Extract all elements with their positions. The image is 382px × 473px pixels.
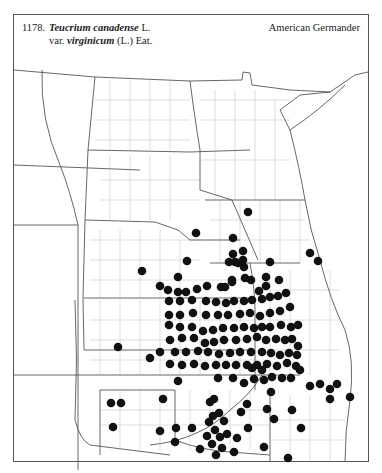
occurrence-dot bbox=[266, 293, 275, 302]
occurrence-dot bbox=[156, 427, 165, 436]
occurrence-dot bbox=[216, 433, 225, 442]
occurrence-dot bbox=[248, 364, 257, 373]
occurrence-dot bbox=[109, 423, 118, 432]
occurrence-dot bbox=[274, 292, 283, 301]
occurrence-dot bbox=[250, 324, 259, 333]
occurrence-dot bbox=[202, 297, 211, 306]
occurrence-dot bbox=[267, 349, 276, 358]
occurrence-dot bbox=[212, 298, 221, 307]
occurrence-dot bbox=[287, 374, 296, 383]
occurrence-dot bbox=[296, 366, 305, 375]
occurrence-dot bbox=[306, 382, 315, 391]
occurrence-dot bbox=[262, 336, 271, 345]
occurrence-dot bbox=[164, 286, 173, 295]
occurrence-dot bbox=[266, 323, 275, 332]
occurrence-dot bbox=[201, 339, 210, 348]
occurrence-dot bbox=[243, 400, 252, 409]
occurrence-dot bbox=[248, 296, 257, 305]
occurrence-dot bbox=[314, 257, 323, 266]
occurrence-dot bbox=[138, 267, 147, 276]
occurrence-dot bbox=[243, 335, 252, 344]
occurrence-dot bbox=[268, 373, 277, 382]
occurrence-dot bbox=[192, 229, 201, 238]
occurrence-dot bbox=[293, 351, 302, 360]
occurrence-dot bbox=[174, 288, 183, 297]
occurrence-dot bbox=[211, 426, 220, 435]
occurrence-dot bbox=[237, 408, 246, 417]
occurrence-dot bbox=[240, 323, 249, 332]
occurrence-dot bbox=[244, 208, 253, 217]
occurrence-dot bbox=[203, 282, 212, 291]
occurrence-dot bbox=[193, 285, 202, 294]
occurrence-dot bbox=[146, 354, 155, 363]
occurrence-dot bbox=[230, 448, 239, 457]
occurrence-dot bbox=[232, 361, 241, 370]
occurrence-dot bbox=[272, 335, 281, 344]
occurrence-dot bbox=[306, 249, 315, 258]
occurrence-dot bbox=[229, 374, 238, 383]
occurrence-dot bbox=[182, 288, 191, 297]
occurrence-dot bbox=[178, 334, 187, 343]
occurrence-dot bbox=[203, 432, 212, 441]
occurrence-dot bbox=[165, 311, 174, 320]
occurrence-dot bbox=[202, 311, 211, 320]
occurrence-dot bbox=[283, 359, 292, 368]
occurrence-dot bbox=[210, 338, 219, 347]
occurrence-dot bbox=[229, 250, 238, 259]
occurrence-dot bbox=[166, 336, 175, 345]
occurrence-dot bbox=[176, 311, 185, 320]
occurrence-dot bbox=[253, 333, 262, 342]
occurrence-dot bbox=[159, 395, 168, 404]
occurrence-dot bbox=[286, 303, 295, 312]
occurrence-dot bbox=[277, 321, 286, 330]
occurrence-dot bbox=[222, 299, 231, 308]
occurrence-dot bbox=[278, 374, 287, 383]
occurrence-dot bbox=[326, 395, 335, 404]
occurrence-dot bbox=[239, 256, 248, 265]
occurrence-dot bbox=[176, 323, 185, 332]
occurrence-dot bbox=[182, 348, 191, 357]
occurrence-dot bbox=[230, 324, 239, 333]
occurrence-dot bbox=[156, 348, 165, 357]
occurrence-dot bbox=[250, 375, 259, 384]
occurrence-dot bbox=[222, 361, 231, 370]
occurrence-dot bbox=[183, 257, 192, 266]
occurrence-dot bbox=[205, 418, 214, 427]
occurrence-dot bbox=[206, 398, 215, 407]
occurrence-dot bbox=[288, 406, 297, 415]
occurrence-dot bbox=[188, 323, 197, 332]
occurrence-dot bbox=[199, 327, 208, 336]
occurrence-dot bbox=[247, 348, 256, 357]
occurrence-dot bbox=[220, 336, 229, 345]
occurrence-dot bbox=[239, 247, 248, 256]
occurrence-dot bbox=[166, 360, 175, 369]
occurrence-dot bbox=[117, 399, 126, 408]
occurrence-dot bbox=[172, 424, 181, 433]
occurrence-dot bbox=[208, 440, 217, 449]
occurrence-dot bbox=[174, 377, 183, 386]
occurrence-dot bbox=[209, 326, 218, 335]
occurrence-dot bbox=[263, 405, 272, 414]
distribution-map bbox=[0, 0, 382, 473]
occurrence-dot bbox=[214, 311, 223, 320]
occurrence-dot bbox=[201, 362, 210, 371]
occurrence-dot bbox=[284, 454, 293, 463]
occurrence-dot bbox=[212, 451, 221, 460]
occurrence-dot bbox=[294, 321, 303, 330]
occurrence-dot bbox=[260, 376, 269, 385]
occurrence-dot bbox=[215, 409, 224, 418]
occurrence-dots bbox=[107, 208, 355, 463]
occurrence-dot bbox=[188, 424, 197, 433]
occurrence-dot bbox=[236, 348, 245, 357]
occurrence-dot bbox=[273, 362, 282, 371]
occurrence-dot bbox=[229, 234, 238, 243]
occurrence-dot bbox=[215, 350, 224, 359]
occurrence-dot bbox=[178, 361, 187, 370]
occurrence-dot bbox=[262, 273, 271, 282]
occurrence-dot bbox=[171, 348, 180, 357]
occurrence-dot bbox=[220, 417, 229, 426]
occurrence-dot bbox=[267, 388, 276, 397]
occurrence-dot bbox=[240, 297, 249, 306]
occurrence-dot bbox=[316, 380, 325, 389]
occurrence-dot bbox=[196, 445, 205, 454]
